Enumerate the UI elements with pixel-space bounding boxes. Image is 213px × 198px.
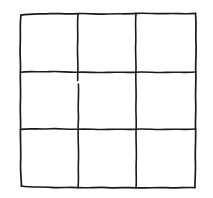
grid-cell-r1c3[interactable] [136,14,195,71]
grid-vertical-line-1-upper-segment [77,14,78,81]
grid-vertical-line-2 [136,14,137,188]
grid-cell-r3c3[interactable] [136,130,195,187]
grid-cell-r3c1[interactable] [21,130,77,187]
grid-cell-r2c2[interactable] [78,73,135,128]
figure-canvas [0,0,213,198]
grid-horizontal-line-2 [21,129,196,130]
grid-cell-r3c2[interactable] [78,130,135,187]
grid-horizontal-line-1 [20,71,195,72]
hand-drawn-grid [0,0,213,198]
grid-cell-r2c1[interactable] [21,73,77,128]
grid-vertical-line-1-lower-segment [78,84,79,188]
grid-cells [21,14,195,187]
grid-cell-r1c2[interactable] [78,14,135,71]
grid-border-right-line [195,14,196,188]
grid-cell-r1c1[interactable] [21,14,77,71]
grid-cell-r2c3[interactable] [136,73,195,128]
